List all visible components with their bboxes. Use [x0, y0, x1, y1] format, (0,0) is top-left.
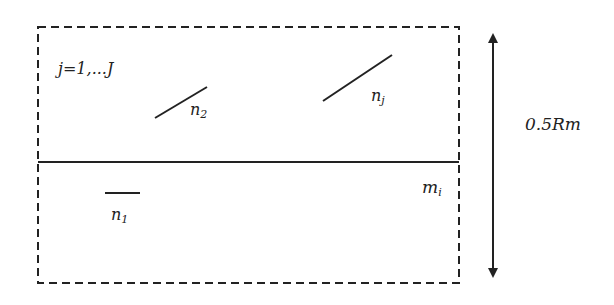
region-mi-label: mi [422, 177, 442, 199]
diagram-canvas: j=1,...J n2 nj n1 mi 0.5Rm [0, 0, 614, 305]
dimension-label: 0.5Rm [525, 114, 581, 134]
index-range-label: j=1,...J [55, 59, 115, 78]
n1-label: n1 [111, 205, 128, 226]
nj-label: nj [371, 86, 385, 107]
n2-label: n2 [190, 100, 207, 121]
